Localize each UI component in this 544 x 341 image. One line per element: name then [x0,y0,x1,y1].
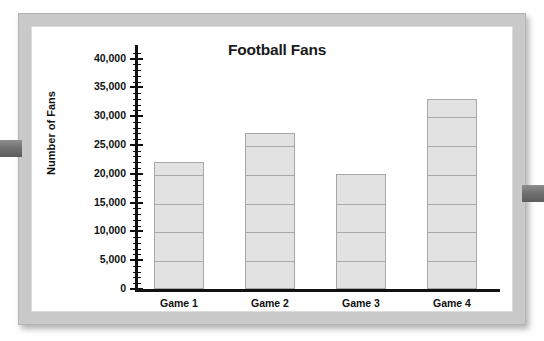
bar-game-4 [427,99,477,289]
y-tick-major [130,230,143,232]
y-tick-minor [133,128,141,129]
y-tick-minor [133,99,141,100]
y-tick-minor [133,191,141,192]
y-tick-major [130,202,143,204]
y-tick-label: 25,000 [50,138,126,150]
y-tick-minor [133,249,141,250]
bar-gridline [155,232,203,233]
y-tick-minor [133,243,141,244]
bar-gridline [155,175,203,176]
bar-gridline [246,232,294,233]
x-tick-label: Game 4 [407,297,497,309]
bar-gridline [246,175,294,176]
bar-game-1 [154,162,204,289]
y-tick-minor [133,237,141,238]
y-tick-minor [133,214,141,215]
chart-title: Football Fans [132,41,422,59]
y-tick-label: 30,000 [50,109,126,121]
y-tick-minor [133,185,141,186]
y-tick-minor [133,168,141,169]
bar-gridline [428,261,476,262]
y-tick-minor [133,133,141,134]
bar-gridline [155,261,203,262]
y-tick-minor [133,105,141,106]
y-tick-minor [133,139,141,140]
y-tick-minor [133,122,141,123]
bar-gridline [155,204,203,205]
bar-gridline [428,232,476,233]
y-tick-label: 20,000 [50,167,126,179]
chart-canvas: Football Fans Number of Fans 05,00010,00… [31,26,513,312]
y-tick-minor [133,156,141,157]
bar-game-2 [245,133,295,289]
y-tick-minor [133,76,141,77]
left-binder-tab [0,140,22,157]
y-tick-major [130,173,143,175]
y-tick-minor [133,82,141,83]
y-tick-label: 15,000 [50,196,126,208]
bar-gridline [337,232,385,233]
y-tick-major [130,288,143,290]
y-tick-minor [133,226,141,227]
y-tick-minor [133,254,141,255]
x-tick-label: Game 3 [316,297,406,309]
y-tick-label: 10,000 [50,224,126,236]
right-binder-tab [522,185,544,202]
y-tick-minor [133,277,141,278]
x-axis-line [135,289,500,292]
y-tick-minor [133,162,141,163]
y-tick-minor [133,220,141,221]
x-tick-label: Game 2 [225,297,315,309]
bar-gridline [428,146,476,147]
bar-gridline [428,204,476,205]
y-tick-label: 5,000 [50,253,126,265]
bar-gridline [428,117,476,118]
y-tick-major [130,86,143,88]
bar-gridline [337,204,385,205]
y-tick-minor [133,151,141,152]
y-tick-label: 0 [50,282,126,294]
y-tick-minor [133,208,141,209]
y-tick-major [130,115,143,117]
y-tick-minor [133,266,141,267]
y-tick-label: 40,000 [50,52,126,64]
bar-gridline [246,261,294,262]
bar-gridline [246,146,294,147]
y-tick-minor [133,110,141,111]
poster-frame: Football Fans Number of Fans 05,00010,00… [18,13,526,325]
y-tick-major [130,58,143,60]
bar-gridline [337,261,385,262]
y-tick-minor [133,180,141,181]
y-tick-minor [133,64,141,65]
y-tick-minor [133,272,141,273]
plot-area: Football Fans Number of Fans 05,00010,00… [32,27,512,311]
y-tick-minor [133,93,141,94]
y-tick-minor [133,53,141,54]
bar-game-3 [336,174,386,289]
x-tick-label: Game 1 [134,297,224,309]
y-tick-major [130,144,143,146]
bar-gridline [428,175,476,176]
y-tick-minor [133,197,141,198]
y-tick-label: 35,000 [50,80,126,92]
y-tick-major [130,259,143,261]
bar-gridline [246,204,294,205]
y-tick-minor [133,70,141,71]
y-tick-minor [133,283,141,284]
